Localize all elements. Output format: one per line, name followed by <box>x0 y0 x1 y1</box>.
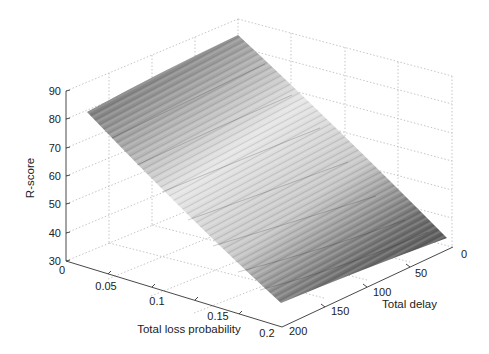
z-axis-ticks <box>66 90 70 261</box>
x-tick-0.2: 0.2 <box>259 327 274 339</box>
surface <box>87 35 447 303</box>
z-tick-80: 80 <box>49 113 61 125</box>
z-axis-label: R-score <box>24 158 36 198</box>
z-tick-40: 40 <box>49 227 61 239</box>
z-tick-60: 60 <box>49 170 61 182</box>
z-tick-50: 50 <box>49 198 61 210</box>
y-tick-50: 50 <box>415 267 427 279</box>
y-axis-label: Total delay <box>382 298 437 310</box>
z-tick-90: 90 <box>49 85 61 97</box>
y-tick-100: 100 <box>373 286 391 298</box>
x-axis-label: Total loss probability <box>137 323 241 335</box>
x-axis-ticks <box>108 271 242 314</box>
x-tick-0.05: 0.05 <box>95 280 116 292</box>
y-tick-200: 200 <box>289 325 307 337</box>
x-tick-0.15: 0.15 <box>207 310 228 322</box>
y-tick-150: 150 <box>331 305 349 317</box>
y-tick-0: 0 <box>461 248 467 260</box>
z-tick-70: 70 <box>49 142 61 154</box>
x-tick-0: 0 <box>59 264 65 276</box>
x-tick-0.1: 0.1 <box>149 295 164 307</box>
surface-plot: 90 80 70 60 50 40 30 0 0.05 0.1 0.15 0.2… <box>0 0 489 354</box>
z-tick-labels: 90 80 70 60 50 40 30 <box>49 85 61 267</box>
